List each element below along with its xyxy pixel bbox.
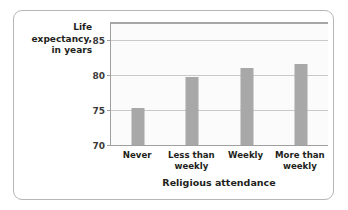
x-tick-label: Weekly	[219, 150, 273, 161]
y-tick-label-85: 85	[92, 36, 105, 46]
x-tick-label-line: More than	[273, 150, 327, 161]
x-axis-line	[111, 145, 328, 146]
bar-slot	[220, 24, 274, 145]
bar-slot	[274, 24, 328, 145]
y-tick-label-75: 75	[92, 106, 105, 116]
y-axis-title: Life expectancy, in years	[14, 22, 92, 57]
bar-slot	[165, 24, 219, 145]
x-tick-label: Never	[110, 150, 164, 161]
y-axis-title-line-1: Life	[14, 22, 92, 34]
x-tick-label-line: Less than	[164, 150, 218, 161]
x-tick-label: More thanweekly	[273, 150, 327, 171]
bar[interactable]	[240, 68, 253, 145]
x-tick-label-line: Never	[110, 150, 164, 161]
x-tick-labels: NeverLess thanweeklyWeeklyMore thanweekl…	[110, 150, 328, 176]
bar[interactable]	[294, 64, 307, 145]
x-tick-label: Less thanweekly	[164, 150, 218, 171]
y-tick-label-80: 80	[92, 71, 105, 81]
bar-slot	[111, 24, 165, 145]
y-axis-title-line-3: in years	[14, 45, 92, 57]
x-tick-label-line: weekly	[273, 161, 327, 172]
x-tick-label-line: Weekly	[219, 150, 273, 161]
bar[interactable]	[186, 77, 199, 145]
x-axis-title: Religious attendance	[110, 177, 328, 188]
y-axis-title-line-2: expectancy,	[14, 34, 92, 46]
bar[interactable]	[132, 108, 145, 145]
plot-area: 70758085	[110, 22, 328, 146]
bars-layer	[111, 24, 328, 145]
x-tick-label-line: weekly	[164, 161, 218, 172]
y-tick-label-70: 70	[92, 141, 105, 151]
